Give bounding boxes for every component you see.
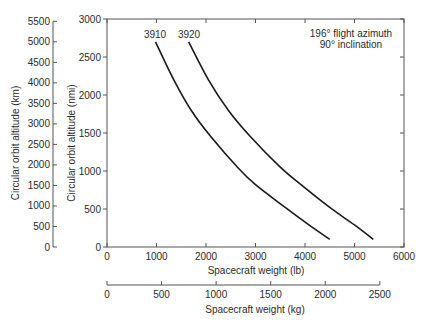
x2-tick-label: 2000 — [314, 289, 337, 300]
y2-tick-label: 3500 — [28, 98, 51, 109]
x-axis-title-lb: Spacecraft weight (lb) — [208, 265, 305, 276]
y2-tick-label: 1000 — [28, 200, 51, 211]
series-label-3920: 3920 — [178, 29, 201, 40]
y2-tick-label: 4000 — [28, 77, 51, 88]
y2-tick-label: 500 — [33, 221, 50, 232]
y2-tick-label: 5500 — [28, 16, 51, 27]
y-tick-label: 1000 — [79, 166, 102, 177]
plot-frame — [107, 19, 404, 247]
y2-tick-label: 2000 — [28, 159, 51, 170]
x2-tick-label: 2500 — [369, 289, 392, 300]
x2-tick-label: 0 — [104, 289, 110, 300]
y-tick-label: 3000 — [79, 14, 102, 25]
y2-tick-label: 3000 — [28, 118, 51, 129]
y2-tick-label: 0 — [44, 242, 50, 253]
x2-tick-label: 1000 — [205, 289, 228, 300]
y-tick-label: 2500 — [79, 52, 102, 63]
x-axis-title-kg: Spacecraft weight (kg) — [205, 304, 305, 315]
y2-tick-label: 5000 — [28, 36, 51, 47]
x-tick-label: 0 — [104, 251, 110, 262]
annotation-azimuth: 196° flight azimuth — [310, 28, 392, 39]
series-label-3910: 3910 — [144, 29, 167, 40]
y-axis-km: 0500100015002000250030003500400045005000… — [28, 16, 57, 253]
x-tick-label: 1000 — [145, 251, 168, 262]
y-axis-title-km: Circular orbit altitude (km) — [10, 86, 21, 200]
x-tick-label: 5000 — [343, 251, 366, 262]
x-tick-label: 2000 — [195, 251, 218, 262]
series-line-3920 — [189, 42, 374, 240]
y-tick-label: 2000 — [79, 90, 102, 101]
x2-tick-label: 1500 — [260, 289, 283, 300]
chart: 0500100015002000250030003500400045005000… — [0, 0, 426, 325]
x2-tick-label: 500 — [153, 289, 170, 300]
data-series — [156, 42, 374, 240]
y-axis-title-nmi: Circular orbit altitude (nmi) — [66, 84, 77, 201]
y-tick-label: 500 — [84, 204, 101, 215]
x-tick-label: 6000 — [393, 251, 416, 262]
series-line-3910 — [156, 42, 330, 240]
annotation-inclination: 90° inclination — [320, 39, 382, 50]
x-axis-kg: 05001000150020002500 — [104, 281, 391, 300]
x-axis-lb: 0100020003000400050006000 — [104, 19, 415, 262]
y2-tick-label: 4500 — [28, 57, 51, 68]
y2-tick-label: 1500 — [28, 180, 51, 191]
x-tick-label: 4000 — [294, 251, 317, 262]
y-tick-label: 1500 — [79, 128, 102, 139]
y-tick-label: 0 — [95, 242, 101, 253]
y2-tick-label: 2500 — [28, 139, 51, 150]
x-tick-label: 3000 — [244, 251, 267, 262]
